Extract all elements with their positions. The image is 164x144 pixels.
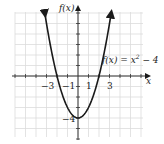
y-axis-label: f(x) <box>58 3 75 13</box>
x-tick-label-neg1: −1 <box>62 81 75 91</box>
x-tick-label-1: 1 <box>86 81 92 91</box>
x-axis-label: x <box>146 76 151 86</box>
x-tick-label-3: 3 <box>107 81 113 91</box>
function-graph: f(x) x f(x) = x2 − 4 −3 −1 1 3 −4 <box>0 0 164 144</box>
axes <box>12 8 148 140</box>
x-tick-label-neg3: −3 <box>41 81 55 91</box>
y-tick-label-neg4: −4 <box>62 114 76 124</box>
function-label: f(x) = x2 − 4 <box>101 53 159 65</box>
